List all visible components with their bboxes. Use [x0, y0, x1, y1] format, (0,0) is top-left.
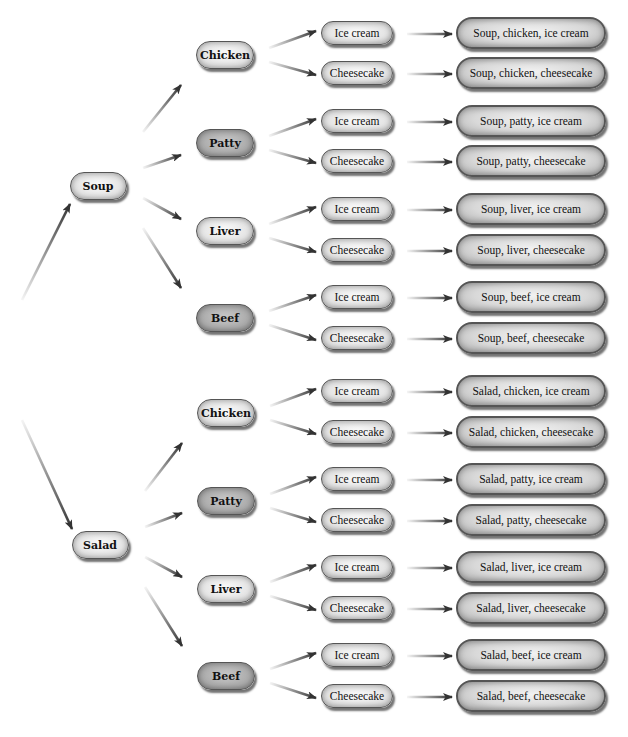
outcome-soup-chicken-ice-cream: Soup, chicken, ice cream [456, 17, 606, 49]
arrow-soup-to-beef [143, 228, 181, 288]
arrow-liver-to-cheesecake [270, 596, 316, 610]
node-soup-patty-cheesecake: Cheesecake [321, 149, 393, 173]
outcome-salad-beef-cheesecake: Salad, beef, cheesecake [456, 680, 606, 712]
arrow-salad-to-chicken [145, 443, 182, 491]
node-salad-beef-ice-cream: Ice cream [321, 643, 393, 667]
arrow-patty-to-cheesecake [269, 150, 316, 163]
arrow-liver-to-ice-cream [270, 565, 316, 582]
arrow-chicken-to-ice-cream [270, 389, 316, 406]
arrow-start-to-salad [22, 420, 72, 529]
arrow-chicken-to-cheesecake [270, 420, 316, 434]
outcome-soup-liver-ice-cream: Soup, liver, ice cream [456, 193, 606, 225]
outcome-salad-liver-cheesecake: Salad, liver, cheesecake [456, 592, 606, 624]
outcome-salad-patty-cheesecake: Salad, patty, cheesecake [456, 504, 606, 536]
arrow-beef-to-ice-cream [269, 295, 316, 311]
node-soup: Soup [70, 172, 127, 200]
node-salad-patty-cheesecake: Cheesecake [321, 508, 393, 532]
arrow-salad-to-liver [145, 557, 182, 577]
arrow-salad-to-patty [145, 513, 182, 527]
node-soup-chicken: Chicken [196, 41, 254, 69]
node-salad-beef: Beef [197, 662, 255, 690]
node-salad-beef-cheesecake: Cheesecake [321, 684, 393, 708]
outcome-soup-beef-ice-cream: Soup, beef, ice cream [456, 281, 606, 313]
node-soup-patty-ice-cream: Ice cream [321, 109, 393, 133]
outcome-salad-patty-ice-cream: Salad, patty, ice cream [456, 463, 606, 495]
arrow-start-to-soup [22, 204, 70, 300]
arrow-soup-to-chicken [143, 85, 181, 132]
node-salad-chicken: Chicken [197, 399, 255, 427]
outcome-soup-patty-ice-cream: Soup, patty, ice cream [456, 105, 606, 137]
arrow-beef-to-cheesecake [269, 325, 316, 340]
tree-diagram: SoupChickenIce creamSoup, chicken, ice c… [0, 0, 628, 737]
node-salad-liver: Liver [197, 575, 255, 603]
outcome-soup-patty-cheesecake: Soup, patty, cheesecake [456, 145, 606, 177]
node-salad: Salad [72, 531, 129, 559]
node-salad-patty: Patty [197, 487, 255, 515]
outcome-salad-liver-ice-cream: Salad, liver, ice cream [456, 551, 606, 583]
node-soup-patty: Patty [196, 129, 254, 157]
arrow-patty-to-cheesecake [270, 508, 316, 522]
arrow-patty-to-ice-cream [269, 119, 316, 136]
arrow-salad-to-beef [145, 587, 182, 646]
node-soup-liver-ice-cream: Ice cream [321, 197, 393, 221]
node-soup-liver: Liver [196, 217, 254, 245]
node-salad-chicken-cheesecake: Cheesecake [321, 420, 393, 444]
arrow-liver-to-ice-cream [269, 207, 316, 224]
arrow-soup-to-patty [143, 155, 181, 168]
node-soup-beef-ice-cream: Ice cream [321, 285, 393, 309]
arrow-patty-to-ice-cream [270, 477, 316, 494]
arrow-chicken-to-cheesecake [269, 62, 316, 75]
outcome-salad-beef-ice-cream: Salad, beef, ice cream [456, 639, 606, 671]
outcome-salad-chicken-ice-cream: Salad, chicken, ice cream [456, 375, 606, 407]
node-soup-beef-cheesecake: Cheesecake [321, 326, 393, 350]
outcome-salad-chicken-cheesecake: Salad, chicken, cheesecake [456, 416, 606, 448]
node-salad-chicken-ice-cream: Ice cream [321, 379, 393, 403]
outcome-soup-chicken-cheesecake: Soup, chicken, cheesecake [456, 57, 606, 89]
outcome-soup-liver-cheesecake: Soup, liver, cheesecake [456, 234, 606, 266]
arrow-beef-to-cheesecake [270, 683, 316, 698]
node-salad-liver-ice-cream: Ice cream [321, 555, 393, 579]
arrow-chicken-to-ice-cream [269, 31, 316, 48]
node-salad-patty-ice-cream: Ice cream [321, 467, 393, 491]
outcome-soup-beef-cheesecake: Soup, beef, cheesecake [456, 322, 606, 354]
node-soup-chicken-cheesecake: Cheesecake [321, 61, 393, 85]
arrow-soup-to-liver [143, 198, 181, 219]
node-soup-beef: Beef [196, 304, 254, 332]
node-salad-liver-cheesecake: Cheesecake [321, 596, 393, 620]
node-soup-chicken-ice-cream: Ice cream [321, 21, 393, 45]
arrow-liver-to-cheesecake [269, 238, 316, 252]
arrow-beef-to-ice-cream [270, 653, 316, 669]
node-soup-liver-cheesecake: Cheesecake [321, 238, 393, 262]
